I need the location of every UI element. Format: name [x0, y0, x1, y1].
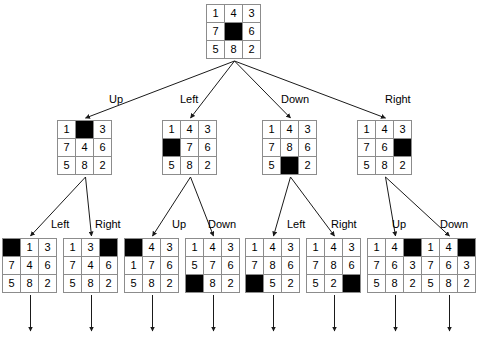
puzzle-tile-7: 7	[368, 257, 386, 275]
puzzle-row: 582	[358, 157, 412, 175]
puzzle-row: 52	[307, 275, 361, 293]
puzzle-tile-2: 2	[299, 157, 317, 175]
edge-label-n-down-right: Right	[331, 218, 357, 230]
puzzle-tile-4: 4	[143, 239, 161, 257]
puzzle-tile-2: 2	[94, 157, 112, 175]
puzzle-tile-7: 7	[64, 257, 82, 275]
puzzle-tile-8: 8	[82, 275, 100, 293]
puzzle-row: 582	[368, 275, 422, 293]
puzzle-tile-5: 5	[263, 157, 281, 175]
edge-label-n-up-right: Right	[95, 218, 121, 230]
puzzle-tile-7: 7	[263, 139, 281, 157]
puzzle-node-n-right-down: 14763582	[421, 238, 476, 293]
puzzle-tile-3: 3	[243, 5, 261, 23]
puzzle-tile-3: 3	[82, 239, 100, 257]
puzzle-tile-7: 7	[246, 257, 264, 275]
puzzle-tile-5: 5	[3, 275, 21, 293]
puzzle-tile-2: 2	[243, 41, 261, 59]
puzzle-tile-8: 8	[76, 157, 94, 175]
puzzle-tile-5: 5	[125, 275, 143, 293]
puzzle-tile-5: 5	[163, 157, 181, 175]
puzzle-tile-5: 5	[422, 275, 440, 293]
puzzle-row: 582	[125, 275, 179, 293]
puzzle-row: 746	[58, 139, 112, 157]
puzzle-tile-3: 3	[161, 239, 179, 257]
puzzle-tile-7: 7	[143, 257, 161, 275]
puzzle-tile-2: 2	[282, 275, 300, 293]
puzzle-tile-1: 1	[186, 239, 204, 257]
puzzle-tile-4: 4	[376, 121, 394, 139]
puzzle-node-n-right-up: 14763582	[367, 238, 422, 293]
puzzle-tile-4: 4	[76, 139, 94, 157]
puzzle-row: 143	[263, 121, 317, 139]
puzzle-tile-7: 7	[3, 257, 21, 275]
puzzle-blank-cell	[225, 23, 243, 41]
puzzle-row: 143	[207, 5, 261, 23]
puzzle-tile-3: 3	[222, 239, 240, 257]
puzzle-tile-6: 6	[100, 257, 118, 275]
puzzle-tile-8: 8	[181, 157, 199, 175]
puzzle-row: 76	[207, 23, 261, 41]
puzzle-row: 13	[58, 121, 112, 139]
puzzle-row: 582	[3, 275, 57, 293]
puzzle-tile-3: 3	[394, 121, 412, 139]
puzzle-tile-5: 5	[207, 41, 225, 59]
edge-label-n-left-up: Up	[172, 218, 186, 230]
puzzle-row: 786	[263, 139, 317, 157]
edge-label-n-down-left: Left	[287, 218, 305, 230]
puzzle-tile-7: 7	[307, 257, 325, 275]
puzzle-tile-4: 4	[204, 239, 222, 257]
puzzle-tile-4: 4	[281, 121, 299, 139]
puzzle-tile-5: 5	[264, 275, 282, 293]
edge-root-to-n-right	[235, 61, 386, 118]
puzzle-tile-4: 4	[181, 121, 199, 139]
puzzle-tile-2: 2	[222, 275, 240, 293]
puzzle-row: 14	[368, 239, 422, 257]
puzzle-row: 746	[3, 257, 57, 275]
puzzle-tile-1: 1	[163, 121, 181, 139]
puzzle-tile-1: 1	[263, 121, 281, 139]
puzzle-tile-6: 6	[376, 139, 394, 157]
puzzle-row: 786	[307, 257, 361, 275]
puzzle-tile-2: 2	[458, 275, 476, 293]
puzzle-node-n-right: 14376582	[357, 120, 412, 175]
puzzle-tile-5: 5	[58, 157, 76, 175]
puzzle-row: 143	[358, 121, 412, 139]
puzzle-tile-8: 8	[225, 41, 243, 59]
puzzle-tile-8: 8	[204, 275, 222, 293]
puzzle-tile-4: 4	[264, 239, 282, 257]
puzzle-blank-cell	[163, 139, 181, 157]
puzzle-row: 582	[207, 41, 261, 59]
puzzle-node-n-left-down: 14357682	[185, 238, 240, 293]
puzzle-blank-cell	[76, 121, 94, 139]
puzzle-row: 576	[186, 257, 240, 275]
puzzle-row: 143	[246, 239, 300, 257]
edge-label-n-right-up: Up	[392, 218, 406, 230]
puzzle-row: 786	[246, 257, 300, 275]
puzzle-row: 763	[422, 257, 476, 275]
puzzle-row: 76	[163, 139, 217, 157]
puzzle-tile-2: 2	[100, 275, 118, 293]
puzzle-row: 582	[64, 275, 118, 293]
puzzle-tile-5: 5	[358, 157, 376, 175]
puzzle-row: 176	[125, 257, 179, 275]
puzzle-tile-2: 2	[161, 275, 179, 293]
puzzle-tile-5: 5	[368, 275, 386, 293]
puzzle-tile-8: 8	[376, 157, 394, 175]
puzzle-row: 746	[64, 257, 118, 275]
puzzle-tile-6: 6	[222, 257, 240, 275]
puzzle-tile-3: 3	[299, 121, 317, 139]
edge-label-n-right-down: Down	[440, 218, 468, 230]
puzzle-blank-cell	[246, 275, 264, 293]
puzzle-tile-6: 6	[299, 139, 317, 157]
edge-root-to-n-down	[235, 61, 291, 118]
puzzle-tile-4: 4	[325, 239, 343, 257]
puzzle-blank-cell	[125, 239, 143, 257]
edge-label-n-right: Right	[385, 93, 411, 105]
puzzle-row: 13	[64, 239, 118, 257]
puzzle-tile-1: 1	[21, 239, 39, 257]
puzzle-tile-1: 1	[125, 257, 143, 275]
puzzle-tile-5: 5	[186, 257, 204, 275]
puzzle-blank-cell	[100, 239, 118, 257]
puzzle-tile-1: 1	[307, 239, 325, 257]
